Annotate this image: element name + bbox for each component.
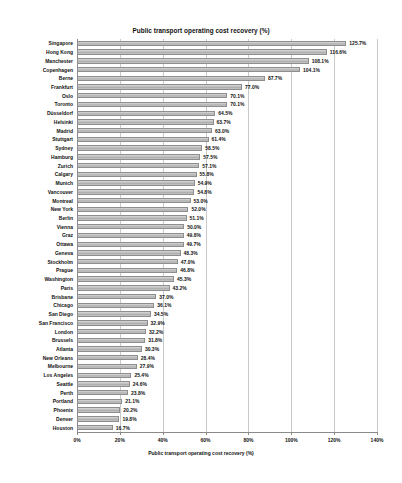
category-label: Munich bbox=[56, 180, 74, 186]
bar-row: Atlanta30.3% bbox=[77, 345, 377, 354]
bar bbox=[77, 163, 199, 168]
category-label: Portland bbox=[53, 398, 73, 404]
bar-chart: Public transport operating cost recovery… bbox=[0, 0, 402, 483]
bar bbox=[77, 242, 184, 247]
bar bbox=[77, 224, 184, 229]
bar bbox=[77, 145, 202, 150]
bar-row: Brussels31.8% bbox=[77, 336, 377, 345]
bar bbox=[77, 172, 197, 177]
chart-title: Public transport operating cost recovery… bbox=[0, 27, 402, 34]
bar bbox=[77, 381, 130, 386]
category-label: Seattle bbox=[57, 381, 73, 387]
bar bbox=[77, 41, 346, 46]
bar-value-label: 23.8% bbox=[131, 390, 145, 396]
x-axis-label: Public transport operating cost recovery… bbox=[0, 450, 402, 456]
category-label: Düsseldorf bbox=[47, 110, 73, 116]
bar-rows: Singapore125.7%Hong Kong116.6%Manchester… bbox=[77, 39, 377, 432]
bar bbox=[77, 76, 265, 81]
bar-row: Vienna50.0% bbox=[77, 222, 377, 231]
bar bbox=[77, 215, 187, 220]
bar bbox=[77, 102, 227, 107]
bar-value-label: 104.1% bbox=[303, 67, 320, 73]
bar-value-label: 57.5% bbox=[203, 154, 217, 160]
bar-value-label: 63.7% bbox=[217, 119, 231, 125]
category-label: Atlanta bbox=[56, 346, 73, 352]
bar-value-label: 48.3% bbox=[184, 250, 198, 256]
bar-row: Oslo70.1% bbox=[77, 91, 377, 100]
bar bbox=[77, 137, 209, 142]
x-tick-label: 20% bbox=[115, 437, 125, 443]
bar bbox=[77, 250, 181, 255]
bar bbox=[77, 268, 177, 273]
bar-row: Zurich57.1% bbox=[77, 161, 377, 170]
bar-value-label: 34.5% bbox=[154, 311, 168, 317]
category-label: Graz bbox=[62, 232, 73, 238]
x-tick-label: 140% bbox=[371, 437, 384, 443]
bar-value-label: 58.5% bbox=[205, 145, 219, 151]
bar-value-label: 19.8% bbox=[122, 416, 136, 422]
bar-row: Phoenix20.2% bbox=[77, 406, 377, 415]
x-tick bbox=[120, 432, 121, 435]
bar-value-label: 63.0% bbox=[215, 128, 229, 134]
bar bbox=[77, 355, 138, 360]
category-label: Stuttgart bbox=[52, 136, 73, 142]
bar bbox=[77, 320, 148, 325]
bar-row: New York52.0% bbox=[77, 205, 377, 214]
bar bbox=[77, 128, 212, 133]
bar bbox=[77, 329, 146, 334]
bar bbox=[77, 198, 191, 203]
bar bbox=[77, 390, 128, 395]
bar-row: Denver19.8% bbox=[77, 415, 377, 424]
bar-row: Stuttgart61.4% bbox=[77, 135, 377, 144]
bar-value-label: 52.0% bbox=[191, 206, 205, 212]
bar-row: Singapore125.7% bbox=[77, 39, 377, 48]
bar-value-label: 46.8% bbox=[180, 267, 194, 273]
bar-value-label: 55.8% bbox=[200, 171, 214, 177]
category-label: Stockholm bbox=[47, 259, 73, 265]
bar-value-label: 54.9% bbox=[198, 180, 212, 186]
x-tick bbox=[248, 432, 249, 435]
bar-row: Munich54.9% bbox=[77, 179, 377, 188]
bar-row: Los Angeles25.4% bbox=[77, 371, 377, 380]
bar-value-label: 61.4% bbox=[212, 136, 226, 142]
bar-value-label: 20.2% bbox=[123, 407, 137, 413]
bar-value-label: 28.4% bbox=[141, 355, 155, 361]
bar-row: Düsseldorf64.5% bbox=[77, 109, 377, 118]
bar-value-label: 64.5% bbox=[218, 110, 232, 116]
bar-row: Calgary55.8% bbox=[77, 170, 377, 179]
bar-value-label: 87.7% bbox=[268, 75, 282, 81]
bar-value-label: 16.7% bbox=[116, 425, 130, 431]
bar-row: Helsinki63.7% bbox=[77, 118, 377, 127]
bar bbox=[77, 364, 137, 369]
category-label: Hamburg bbox=[51, 154, 73, 160]
bar-value-label: 49.7% bbox=[187, 241, 201, 247]
bar-row: Ottawa49.7% bbox=[77, 240, 377, 249]
category-label: Paris bbox=[61, 285, 73, 291]
bar bbox=[77, 285, 170, 290]
bar-value-label: 53.0% bbox=[194, 198, 208, 204]
bar-row: Portland21.1% bbox=[77, 397, 377, 406]
bar-value-label: 32.9% bbox=[151, 320, 165, 326]
bar-value-label: 30.3% bbox=[145, 346, 159, 352]
bar-row: San Francisco32.9% bbox=[77, 318, 377, 327]
category-label: Melbourne bbox=[48, 363, 73, 369]
category-label: San Diego bbox=[49, 311, 73, 317]
x-tick bbox=[377, 432, 378, 435]
bar bbox=[77, 58, 309, 63]
bar-row: Melbourne27.9% bbox=[77, 362, 377, 371]
bar bbox=[77, 154, 200, 159]
bar-row: Montreal53.0% bbox=[77, 196, 377, 205]
bar-value-label: 54.8% bbox=[197, 189, 211, 195]
bar-value-label: 70.1% bbox=[230, 93, 244, 99]
category-label: Perth bbox=[60, 390, 73, 396]
bar-value-label: 43.2% bbox=[173, 285, 187, 291]
category-label: Los Angeles bbox=[43, 372, 73, 378]
x-tick-label: 60% bbox=[201, 437, 211, 443]
bar-row: Toronto70.1% bbox=[77, 100, 377, 109]
category-label: Copenhagen bbox=[43, 67, 73, 73]
bar bbox=[77, 407, 120, 412]
x-tick-label: 40% bbox=[158, 437, 168, 443]
x-tick bbox=[77, 432, 78, 435]
bar-row: San Diego34.5% bbox=[77, 310, 377, 319]
bar-row: Berne87.7% bbox=[77, 74, 377, 83]
